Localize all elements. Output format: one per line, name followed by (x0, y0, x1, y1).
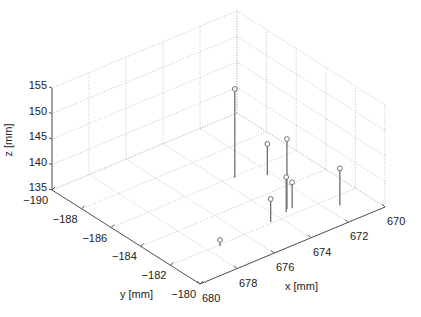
x-axis-label: x [mm] (285, 280, 318, 292)
x-tick-label: 680 (202, 292, 220, 304)
stem-marker (337, 166, 342, 171)
y-tick (111, 225, 114, 228)
y-tick (82, 206, 85, 209)
side-wall-grid-line-z (237, 37, 385, 131)
side-wall-grid-line-z (237, 113, 385, 207)
x-tick-label: 672 (350, 230, 368, 242)
z-tick-label: 135 (29, 181, 47, 193)
side-wall-grid-line-z (237, 11, 385, 105)
z-tick-label: 155 (29, 79, 47, 91)
y-tick-label: −184 (112, 250, 137, 262)
back-wall-grid-line-z (52, 113, 237, 190)
back-wall-grid-line-z (52, 88, 237, 165)
stem-marker (285, 137, 290, 142)
z-axis-label: z [mm] (2, 124, 14, 157)
stem-marker (290, 180, 295, 185)
stem-marker (284, 175, 289, 180)
y-tick (170, 262, 173, 265)
y-tick-label: −182 (142, 269, 167, 281)
floor-grid-line-x (126, 159, 274, 253)
floor-grid-line-x (163, 144, 311, 238)
z-tick-label: 150 (29, 105, 47, 117)
y-axis-line (52, 190, 200, 284)
stem3-chart: −190−188−186−184−182−1806706726746766786… (0, 0, 421, 317)
z-tick (49, 87, 52, 88)
stem-marker (218, 238, 223, 243)
x-tick-label: 674 (313, 246, 331, 258)
stems-layer (218, 87, 343, 247)
floor-grid-line-y (141, 169, 326, 246)
floor-grid-line-y (52, 113, 237, 190)
x-tick-label: 670 (387, 215, 405, 227)
back-wall-grid-line-z (52, 11, 237, 88)
back-wall-grid-line-z (52, 37, 237, 114)
y-tick-label: −190 (23, 194, 48, 206)
y-tick-label: −186 (82, 232, 107, 244)
floor-grid-line-y (82, 132, 267, 209)
y-tick-label: −188 (53, 213, 78, 225)
side-wall-grid-line-z (237, 62, 385, 156)
x-tick-label: 676 (276, 261, 294, 273)
y-axis-label: y [mm] (120, 288, 153, 300)
stem-marker (232, 87, 237, 92)
z-tick-label: 140 (29, 156, 47, 168)
z-tick-label: 145 (29, 130, 47, 142)
y-tick (141, 243, 144, 246)
stem-marker (268, 197, 273, 202)
back-wall-grid-line-z (52, 62, 237, 139)
stem-marker (265, 142, 270, 147)
floor-grid-line-y (111, 151, 296, 228)
x-tick-label: 678 (239, 277, 257, 289)
y-tick-label: −180 (171, 288, 196, 300)
